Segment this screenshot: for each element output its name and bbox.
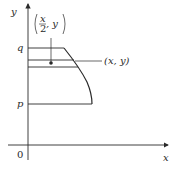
right-paren <box>63 14 65 34</box>
diagram-canvas: y x 0 q p (x, y) x 2 , y <box>0 0 179 169</box>
left-paren <box>35 14 37 34</box>
p-label: p <box>17 98 24 109</box>
midpoint-label: x 2 , y <box>35 13 65 34</box>
q-label: q <box>17 42 23 53</box>
origin-label: 0 <box>17 149 23 160</box>
point-label: (x, y) <box>104 55 130 66</box>
y-axis-label: y <box>10 6 17 17</box>
midpoint-label-tail: , y <box>46 18 58 29</box>
x-axis-label: x <box>163 152 169 163</box>
midpoint-dot <box>49 61 53 65</box>
boundary-curve <box>64 48 92 104</box>
